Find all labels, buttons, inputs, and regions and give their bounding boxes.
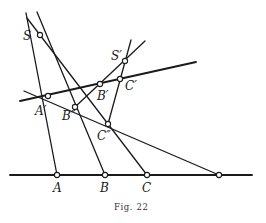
point-c — [144, 172, 149, 177]
label-b-double-prime: B″ — [61, 109, 76, 123]
point-b — [102, 172, 107, 177]
label-a: A — [52, 181, 62, 195]
point-d — [216, 172, 221, 177]
point-s — [37, 32, 42, 37]
label-b-prime: B′ — [96, 89, 109, 103]
label-c: C — [142, 181, 151, 195]
point-a-prime — [45, 93, 50, 98]
point-s-prime — [122, 58, 127, 63]
label-a-prime: A′ — [34, 104, 47, 118]
line-a1-b2-c2 — [24, 91, 219, 175]
label-s-prime: S′ — [111, 49, 122, 63]
point-a — [54, 172, 59, 177]
point-b-prime — [97, 81, 102, 86]
label-b: B — [99, 181, 109, 195]
label-c-prime: C′ — [125, 79, 137, 93]
geometry-figure: S S′ A′ B′ C′ B″ C″ A B C Fig. 22 — [0, 0, 266, 223]
line-s1-b2 — [75, 41, 145, 107]
label-c-double-prime: C″ — [97, 129, 111, 143]
label-s: S — [23, 29, 31, 43]
point-c-double-prime — [105, 121, 110, 126]
point-c-prime — [117, 76, 122, 81]
figure-caption: Fig. 22 — [114, 202, 148, 212]
